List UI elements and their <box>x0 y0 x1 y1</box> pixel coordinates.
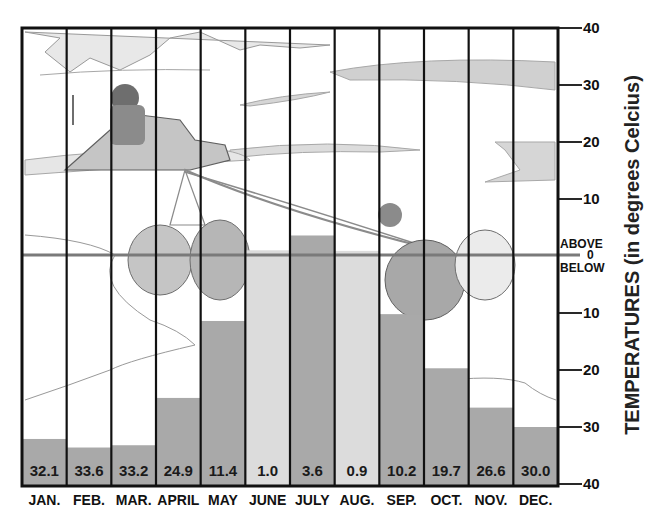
value-label: 30.0 <box>513 462 558 479</box>
value-label: 0.9 <box>335 462 380 479</box>
bar-july <box>290 235 335 486</box>
value-label: 33.6 <box>67 462 112 479</box>
bar-aug <box>335 251 380 486</box>
value-label: 19.7 <box>424 462 469 479</box>
value-label: 11.4 <box>201 462 246 479</box>
y-tick-label: 10 <box>583 190 600 207</box>
value-label: 32.1 <box>22 462 67 479</box>
zero-label: 0 <box>587 249 594 261</box>
y-tick-label: 40 <box>583 19 600 36</box>
temperature-chart <box>0 0 653 529</box>
bar-june <box>245 250 290 486</box>
value-label: 3.6 <box>290 462 335 479</box>
y-tick-label: 30 <box>583 76 600 93</box>
y-axis-title: TEMPERATURES (in degrees Celcius) <box>621 75 644 435</box>
month-label: DEC. <box>509 492 562 508</box>
y-tick-label: 20 <box>583 361 600 378</box>
value-label: 1.0 <box>245 462 290 479</box>
value-label: 10.2 <box>379 462 424 479</box>
y-tick-label: 30 <box>583 418 600 435</box>
y-tick-label: 20 <box>583 133 600 150</box>
y-tick-label: 40 <box>583 475 600 492</box>
below-label: BELOW <box>560 262 605 274</box>
value-label: 33.2 <box>111 462 156 479</box>
value-label: 24.9 <box>156 462 201 479</box>
above-label: ABOVE <box>560 238 603 250</box>
y-tick-label: 10 <box>583 304 600 321</box>
bar-sep <box>379 314 424 486</box>
value-label: 26.6 <box>469 462 514 479</box>
